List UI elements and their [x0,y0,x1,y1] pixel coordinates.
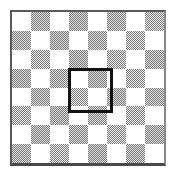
board-cell-r2-c7 [145,50,164,69]
board-cell-r1-c3 [69,31,88,50]
board-cell-r6-c7 [145,125,164,144]
board-cell-r7-c2 [50,144,69,163]
board-cell-r2-c4 [88,50,107,69]
board-cell-r4-c7 [145,88,164,107]
board-cell-r4-c0 [12,88,31,107]
board-cell-r1-c7 [145,31,164,50]
board-cell-r6-c3 [69,125,88,144]
board-cell-r0-c2 [50,12,69,31]
board-cell-r5-c7 [145,106,164,125]
board-cell-r0-c0 [12,12,31,31]
board-cell-r7-c4 [88,144,107,163]
board-cell-r1-c2 [50,31,69,50]
board-cell-r6-c0 [12,125,31,144]
board-cell-r2-c6 [126,50,145,69]
board-cell-r6-c1 [31,125,50,144]
board-cell-r1-c5 [107,31,126,50]
board-cell-r6-c6 [126,125,145,144]
board-cell-r3-c0 [12,69,31,88]
board-cell-r7-c6 [126,144,145,163]
board-cell-r7-c3 [69,144,88,163]
board-cell-r1-c6 [126,31,145,50]
board-cell-r4-c3 [69,88,88,107]
board-cell-r0-c6 [126,12,145,31]
board-cell-r2-c5 [107,50,126,69]
board-cell-r3-c5 [107,69,126,88]
board-cell-r1-c1 [31,31,50,50]
board-cell-r4-c1 [31,88,50,107]
board-cell-r2-c3 [69,50,88,69]
board-cell-r5-c2 [50,106,69,125]
board-cell-r0-c1 [31,12,50,31]
board-frame [10,10,166,166]
board-cell-r6-c4 [88,125,107,144]
board-cell-r4-c2 [50,88,69,107]
board-cell-r0-c3 [69,12,88,31]
board-cell-r0-c5 [107,12,126,31]
board-cell-r0-c4 [88,12,107,31]
checkerboard-grid [12,12,164,163]
board-cell-r2-c1 [31,50,50,69]
board-cell-r0-c7 [145,12,164,31]
board-cell-r3-c1 [31,69,50,88]
board-cell-r5-c1 [31,106,50,125]
board-cell-r5-c4 [88,106,107,125]
board-cell-r3-c6 [126,69,145,88]
board-cell-r3-c3 [69,69,88,88]
board-cell-r5-c6 [126,106,145,125]
board-cell-r7-c0 [12,144,31,163]
board-cell-r5-c3 [69,106,88,125]
board-cell-r3-c7 [145,69,164,88]
board-cell-r7-c5 [107,144,126,163]
board-cell-r2-c0 [12,50,31,69]
board-cell-r1-c0 [12,31,31,50]
board-cell-r5-c0 [12,106,31,125]
board-cell-r3-c4 [88,69,107,88]
board-cell-r7-c7 [145,144,164,163]
board-cell-r4-c5 [107,88,126,107]
board-cell-r2-c2 [50,50,69,69]
board-cell-r1-c4 [88,31,107,50]
board-cell-r6-c5 [107,125,126,144]
board-cell-r5-c5 [107,106,126,125]
board-cell-r6-c2 [50,125,69,144]
board-cell-r4-c4 [88,88,107,107]
board-cell-r3-c2 [50,69,69,88]
board-cell-r4-c6 [126,88,145,107]
checkerboard-figure [0,0,176,176]
board-cell-r7-c1 [31,144,50,163]
